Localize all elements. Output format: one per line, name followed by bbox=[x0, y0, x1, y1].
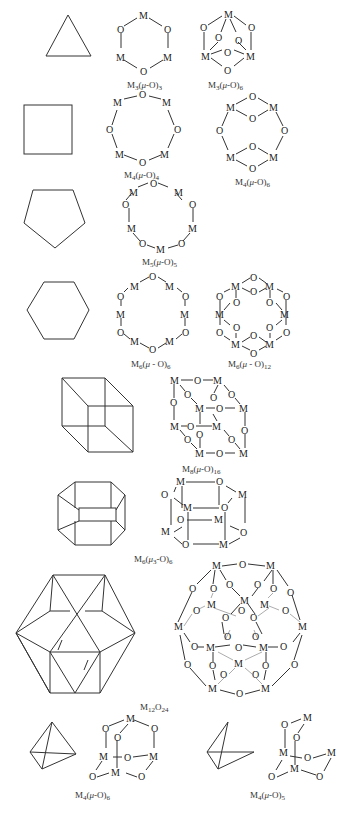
svg-text:M: M bbox=[303, 712, 312, 723]
svg-text:M: M bbox=[290, 763, 299, 774]
svg-text:O: O bbox=[249, 113, 256, 124]
svg-text:M: M bbox=[126, 713, 135, 724]
svg-text:M: M bbox=[156, 244, 165, 255]
polyhedron-hexagonal-prism bbox=[58, 482, 125, 545]
cluster-m6-o6: O M M O O M M O O M M O bbox=[116, 271, 189, 355]
caption-m6-o12: M6(μ - O)12 bbox=[228, 359, 272, 371]
svg-text:M: M bbox=[259, 642, 268, 653]
svg-text:M: M bbox=[163, 52, 172, 63]
svg-text:O: O bbox=[182, 539, 189, 550]
svg-text:O: O bbox=[262, 660, 269, 671]
cluster-m8-o16: M O M O O O O M O M M O M O O O O M O M bbox=[170, 375, 248, 459]
svg-text:O: O bbox=[161, 489, 168, 500]
svg-text:O: O bbox=[222, 612, 229, 623]
svg-text:O: O bbox=[283, 291, 290, 302]
svg-text:O: O bbox=[164, 24, 171, 35]
svg-text:M: M bbox=[111, 767, 120, 778]
svg-text:M: M bbox=[327, 747, 336, 758]
svg-text:O: O bbox=[209, 660, 216, 671]
svg-text:O: O bbox=[216, 403, 223, 414]
svg-text:O: O bbox=[228, 434, 235, 445]
svg-text:M: M bbox=[195, 448, 204, 459]
svg-text:O: O bbox=[250, 286, 257, 297]
svg-text:O: O bbox=[250, 330, 257, 341]
svg-text:M: M bbox=[215, 309, 224, 320]
cluster-m6-mu3-o6: M O O M M O O M M O O M bbox=[161, 476, 247, 550]
caption-m5-o5: M5(μ-O)5 bbox=[142, 257, 178, 269]
svg-text:O: O bbox=[139, 157, 146, 168]
svg-text:O: O bbox=[316, 771, 323, 782]
svg-text:M: M bbox=[180, 309, 189, 320]
svg-text:O: O bbox=[139, 89, 146, 100]
svg-text:O: O bbox=[224, 65, 231, 76]
svg-text:O: O bbox=[250, 272, 257, 283]
svg-text:O: O bbox=[249, 163, 256, 174]
svg-text:O: O bbox=[216, 476, 223, 487]
svg-text:M: M bbox=[265, 339, 274, 350]
svg-text:O: O bbox=[191, 641, 198, 652]
svg-text:O: O bbox=[102, 723, 109, 734]
svg-text:M: M bbox=[224, 9, 233, 20]
svg-text:O: O bbox=[139, 238, 146, 249]
cluster-m3-o6: M O O O O M O M O bbox=[200, 9, 255, 76]
svg-text:O: O bbox=[117, 327, 124, 338]
svg-text:O: O bbox=[282, 605, 289, 616]
svg-text:O: O bbox=[177, 514, 184, 525]
svg-text:O: O bbox=[236, 688, 243, 699]
svg-text:O: O bbox=[293, 732, 300, 743]
cluster-m4-o5: M O O M O M M O O bbox=[268, 712, 336, 782]
svg-text:M: M bbox=[266, 560, 275, 571]
svg-text:O: O bbox=[216, 291, 223, 302]
svg-text:O: O bbox=[170, 397, 177, 408]
svg-text:M: M bbox=[195, 403, 204, 414]
svg-text:M: M bbox=[212, 421, 221, 432]
svg-text:M: M bbox=[183, 502, 192, 513]
polyhedron-pentagon bbox=[24, 190, 85, 248]
svg-text:O: O bbox=[235, 642, 242, 653]
svg-text:M: M bbox=[170, 421, 179, 432]
svg-text:O: O bbox=[228, 389, 235, 400]
svg-text:O: O bbox=[235, 35, 242, 46]
svg-text:O: O bbox=[122, 199, 129, 210]
caption-m6-o6: M6(μ - O)6 bbox=[131, 359, 171, 371]
svg-text:M: M bbox=[231, 339, 240, 350]
svg-text:M: M bbox=[174, 187, 183, 198]
svg-text:O: O bbox=[215, 32, 222, 43]
svg-text:O: O bbox=[221, 502, 228, 513]
svg-text:O: O bbox=[114, 732, 121, 743]
svg-text:O: O bbox=[193, 605, 200, 616]
svg-text:O: O bbox=[287, 587, 294, 598]
svg-text:O: O bbox=[238, 605, 245, 616]
svg-text:O: O bbox=[149, 271, 156, 282]
svg-text:O: O bbox=[291, 659, 298, 670]
svg-text:O: O bbox=[189, 199, 196, 210]
svg-text:O: O bbox=[252, 631, 259, 642]
svg-text:O: O bbox=[254, 579, 261, 590]
caption-m6-mu3-o6: M6(μ3-O)6 bbox=[134, 554, 173, 566]
svg-text:M: M bbox=[269, 102, 278, 113]
polyhedron-hexagon bbox=[27, 282, 89, 339]
svg-text:O: O bbox=[266, 297, 273, 308]
svg-text:M: M bbox=[129, 187, 138, 198]
svg-text:O: O bbox=[249, 91, 256, 102]
caption-m3-o6: M3(μ-O)6 bbox=[208, 80, 244, 92]
svg-text:M: M bbox=[298, 621, 307, 632]
svg-text:M: M bbox=[238, 489, 247, 500]
svg-text:M: M bbox=[160, 149, 169, 160]
svg-text:O: O bbox=[210, 583, 217, 594]
svg-text:O: O bbox=[184, 434, 191, 445]
svg-text:O: O bbox=[216, 327, 223, 338]
svg-text:O: O bbox=[140, 66, 147, 77]
polyhedron-square bbox=[24, 105, 72, 154]
svg-text:M: M bbox=[280, 309, 289, 320]
cluster-m12-o24: M O M O O O O O O M M M O O O O O M M O … bbox=[174, 559, 307, 699]
svg-text:O: O bbox=[150, 178, 157, 189]
svg-text:M: M bbox=[113, 97, 122, 108]
caption-m4-o6: M4(μ-O)6 bbox=[235, 177, 271, 189]
svg-text:O: O bbox=[220, 669, 227, 680]
svg-text:M: M bbox=[149, 751, 158, 762]
svg-text:O: O bbox=[268, 771, 275, 782]
svg-text:O: O bbox=[266, 322, 273, 333]
svg-text:M: M bbox=[213, 375, 222, 386]
svg-text:O: O bbox=[281, 719, 288, 730]
